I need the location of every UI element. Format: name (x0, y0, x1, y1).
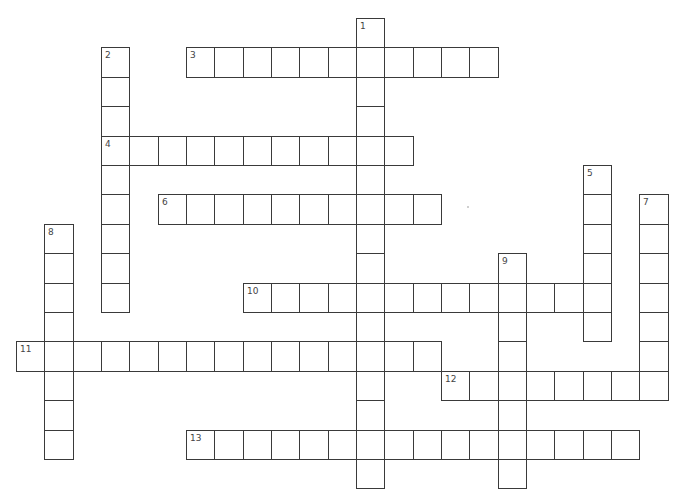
crossword-cell[interactable] (158, 136, 187, 166)
crossword-cell[interactable] (356, 77, 385, 107)
cell-letter-input[interactable] (499, 284, 526, 312)
crossword-cell[interactable] (356, 400, 385, 431)
cell-letter-input[interactable] (357, 460, 384, 488)
cell-letter-input[interactable] (102, 225, 129, 253)
cell-letter-input[interactable] (584, 284, 611, 312)
crossword-cell[interactable] (44, 253, 74, 284)
crossword-cell[interactable] (328, 341, 357, 372)
crossword-cell[interactable]: 3 (186, 47, 215, 78)
crossword-cell[interactable]: 4 (101, 136, 130, 166)
cell-letter-input[interactable] (640, 284, 668, 312)
crossword-cell[interactable] (271, 47, 300, 78)
cell-letter-input[interactable] (527, 372, 554, 400)
cell-letter-input[interactable] (244, 284, 271, 312)
cell-letter-input[interactable] (45, 284, 73, 312)
cell-letter-input[interactable] (640, 372, 668, 400)
cell-letter-input[interactable] (527, 284, 554, 312)
cell-letter-input[interactable] (215, 431, 243, 459)
crossword-cell[interactable] (299, 136, 329, 166)
cell-letter-input[interactable] (584, 254, 611, 283)
crossword-cell[interactable] (328, 47, 357, 78)
crossword-cell[interactable] (356, 224, 385, 254)
cell-letter-input[interactable] (442, 48, 469, 77)
crossword-cell[interactable] (583, 283, 612, 313)
crossword-cell[interactable] (583, 371, 612, 401)
cell-letter-input[interactable] (102, 284, 129, 312)
cell-letter-input[interactable] (555, 372, 583, 400)
cell-letter-input[interactable] (640, 225, 668, 253)
cell-letter-input[interactable] (470, 284, 498, 312)
cell-letter-input[interactable] (329, 284, 356, 312)
crossword-cell[interactable] (498, 400, 527, 431)
crossword-cell[interactable] (583, 430, 612, 460)
cell-letter-input[interactable] (272, 48, 299, 77)
crossword-cell[interactable] (186, 136, 215, 166)
cell-letter-input[interactable] (329, 195, 356, 224)
cell-letter-input[interactable] (357, 19, 384, 47)
crossword-cell[interactable] (101, 77, 130, 107)
crossword-cell[interactable] (384, 47, 414, 78)
crossword-cell[interactable] (299, 341, 329, 372)
cell-letter-input[interactable] (414, 195, 441, 224)
crossword-cell[interactable] (44, 341, 74, 372)
crossword-cell[interactable] (441, 283, 470, 313)
cell-letter-input[interactable] (244, 342, 271, 371)
cell-letter-input[interactable] (215, 195, 243, 224)
crossword-cell[interactable] (413, 47, 442, 78)
cell-letter-input[interactable] (385, 342, 413, 371)
crossword-cell[interactable]: 5 (583, 165, 612, 195)
cell-letter-input[interactable] (527, 431, 554, 459)
crossword-cell[interactable] (101, 283, 130, 313)
crossword-cell[interactable] (214, 430, 244, 460)
crossword-cell[interactable] (639, 312, 669, 342)
cell-letter-input[interactable] (584, 313, 611, 341)
crossword-cell[interactable] (299, 194, 329, 225)
crossword-cell[interactable] (129, 341, 159, 372)
crossword-cell[interactable] (639, 341, 669, 372)
cell-letter-input[interactable] (187, 342, 214, 371)
crossword-cell[interactable] (243, 341, 272, 372)
cell-letter-input[interactable] (329, 342, 356, 371)
crossword-cell[interactable]: 6 (158, 194, 187, 225)
crossword-cell[interactable] (639, 253, 669, 284)
crossword-cell[interactable] (299, 430, 329, 460)
cell-letter-input[interactable] (357, 342, 384, 371)
crossword-cell[interactable] (583, 224, 612, 254)
cell-letter-input[interactable] (45, 431, 73, 459)
crossword-cell[interactable] (158, 341, 187, 372)
crossword-cell[interactable] (356, 106, 385, 137)
crossword-cell[interactable]: 11 (16, 341, 45, 372)
crossword-cell[interactable] (271, 194, 300, 225)
cell-letter-input[interactable] (102, 342, 129, 371)
cell-letter-input[interactable] (357, 313, 384, 341)
cell-letter-input[interactable] (357, 48, 384, 77)
cell-letter-input[interactable] (272, 137, 299, 165)
crossword-cell[interactable] (44, 400, 74, 431)
crossword-cell[interactable] (73, 341, 102, 372)
crossword-cell[interactable] (469, 47, 499, 78)
cell-letter-input[interactable] (102, 137, 129, 165)
cell-letter-input[interactable] (272, 342, 299, 371)
cell-letter-input[interactable] (385, 431, 413, 459)
cell-letter-input[interactable] (470, 431, 498, 459)
cell-letter-input[interactable] (584, 372, 611, 400)
cell-letter-input[interactable] (215, 342, 243, 371)
cell-letter-input[interactable] (442, 284, 469, 312)
cell-letter-input[interactable] (130, 342, 158, 371)
cell-letter-input[interactable] (244, 195, 271, 224)
crossword-cell[interactable] (498, 459, 527, 489)
crossword-cell[interactable] (44, 312, 74, 342)
cell-letter-input[interactable] (555, 284, 583, 312)
cell-letter-input[interactable] (300, 48, 328, 77)
crossword-cell[interactable] (214, 341, 244, 372)
crossword-cell[interactable] (384, 136, 414, 166)
cell-letter-input[interactable] (102, 107, 129, 136)
cell-letter-input[interactable] (272, 431, 299, 459)
cell-letter-input[interactable] (385, 137, 413, 165)
cell-letter-input[interactable] (357, 225, 384, 253)
crossword-cell[interactable] (469, 371, 499, 401)
crossword-cell[interactable]: 7 (639, 194, 669, 225)
cell-letter-input[interactable] (442, 431, 469, 459)
crossword-cell[interactable] (271, 283, 300, 313)
cell-letter-input[interactable] (640, 342, 668, 371)
